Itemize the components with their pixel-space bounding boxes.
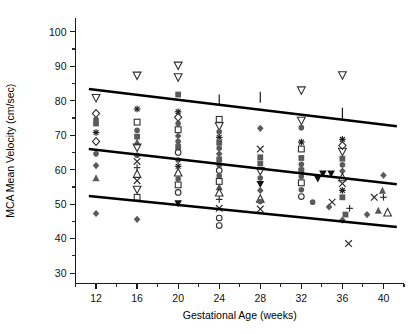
data-point-filled-circle [299,187,305,193]
y-axis-title: MCA Mean Velocity (cm/sec) [4,84,16,218]
data-point-open-square [216,116,222,122]
data-point-filled-circle [216,173,222,179]
scatter-plot-figure: 30405060708090100 1216202428323640 Gesta… [0,0,412,334]
data-point-open-circle [175,150,181,156]
y-tick-label: 30 [55,267,67,279]
data-point-open-circle [216,168,222,174]
data-point-filled-square [93,121,99,127]
data-point-filled-circle [257,175,263,181]
data-point-filled-square [216,156,222,162]
regression-line-layer [89,89,397,227]
data-point-filled-triangle-up [92,174,99,181]
data-point-open-triangle-down [174,74,182,81]
y-tick-label: 90 [55,60,67,72]
data-point-filled-diamond [93,162,100,169]
data-point-filled-square [216,140,222,146]
data-point-open-square [134,119,140,125]
data-point-filled-triangle-up [379,187,386,194]
data-point-open-square [298,146,304,152]
data-point-filled-circle [175,176,181,182]
x-axis-tick-labels: 1216202428323640 [90,292,389,304]
error-bar-layer [219,92,342,119]
x-tick-label: 16 [131,292,143,304]
data-point-filled-circle [310,199,316,205]
data-point-open-triangle-up [133,170,141,177]
data-point-filled-square [257,161,263,167]
data-point-filled-circle [299,125,305,131]
data-point-filled-circle [299,167,305,173]
data-point-cross-x [134,158,141,165]
data-point-open-triangle-up [384,209,392,216]
data-point-plus [380,194,387,201]
data-point-open-circle [299,194,305,200]
data-point-open-triangle-up [174,169,182,176]
data-point-open-square [175,127,181,133]
data-point-cross-x [134,177,141,184]
x-tick-label: 12 [90,292,102,304]
data-point-plus [216,196,223,203]
x-tick-label: 28 [254,292,266,304]
regression-line-lower-5th-percentile [89,196,397,227]
x-tick-label: 40 [378,292,390,304]
data-point-filled-square [340,194,346,200]
data-point-open-circle [216,223,222,229]
chart-canvas: 30405060708090100 1216202428323640 Gesta… [0,0,412,334]
data-point-filled-circle [175,121,181,127]
data-point-asterisk [298,139,305,146]
data-point-filled-square [175,144,181,150]
data-point-cross-x [345,240,352,247]
data-point-open-triangle-down [133,186,141,193]
data-point-open-circle [175,190,181,196]
data-point-filled-circle [257,199,263,205]
data-point-open-circle [216,215,222,221]
data-point-filled-square [340,156,346,162]
data-point-filled-diamond [257,125,264,132]
data-point-asterisk [339,187,346,194]
data-point-open-square [175,182,181,188]
data-point-filled-diamond [216,150,223,157]
data-point-asterisk [93,129,100,136]
data-point-open-diamond [92,138,99,146]
data-point-filled-diamond [380,172,387,179]
data-point-filled-circle [175,139,181,145]
data-point-filled-diamond [326,203,333,210]
y-tick-label: 80 [55,95,67,107]
data-point-filled-circle [134,128,140,134]
y-tick-label: 100 [49,26,67,38]
data-point-open-triangle-down [339,72,347,79]
data-point-open-diamond [92,110,99,118]
y-tick-label: 50 [55,198,67,210]
x-axis-title: Gestational Age (weeks) [183,309,297,321]
data-point-asterisk [134,106,141,113]
data-point-plus [346,205,353,212]
data-point-filled-square [175,92,181,98]
data-point-filled-diamond [257,187,264,194]
data-point-filled-circle [340,162,346,168]
data-point-open-triangle-down [297,87,305,94]
y-axis-tick-labels: 30405060708090100 [49,26,67,279]
x-tick-label: 32 [296,292,308,304]
data-point-open-triangle-down [92,94,100,101]
data-point-cross-x [257,206,264,213]
data-point-filled-circle [216,129,222,135]
data-point-cross-x [257,146,264,153]
data-point-filled-square [298,155,304,161]
data-point-open-square [298,180,304,186]
y-tick-label: 60 [55,164,67,176]
data-point-filled-diamond [93,210,100,217]
data-point-filled-circle [299,161,305,167]
data-point-filled-square [257,154,263,160]
x-tick-label: 36 [337,292,349,304]
y-tick-label: 70 [55,129,67,141]
data-point-filled-square [343,212,349,218]
data-point-filled-diamond [364,211,371,218]
data-point-filled-diamond [175,132,182,139]
data-point-filled-circle [93,151,99,157]
y-tick-label: 40 [55,232,67,244]
data-point-cross-x [371,194,378,201]
data-point-open-triangle-down [133,72,141,79]
data-point-open-triangle-down [297,117,305,124]
x-tick-label: 24 [213,292,225,304]
data-point-filled-triangle-up [375,207,382,214]
data-point-asterisk [216,134,223,141]
